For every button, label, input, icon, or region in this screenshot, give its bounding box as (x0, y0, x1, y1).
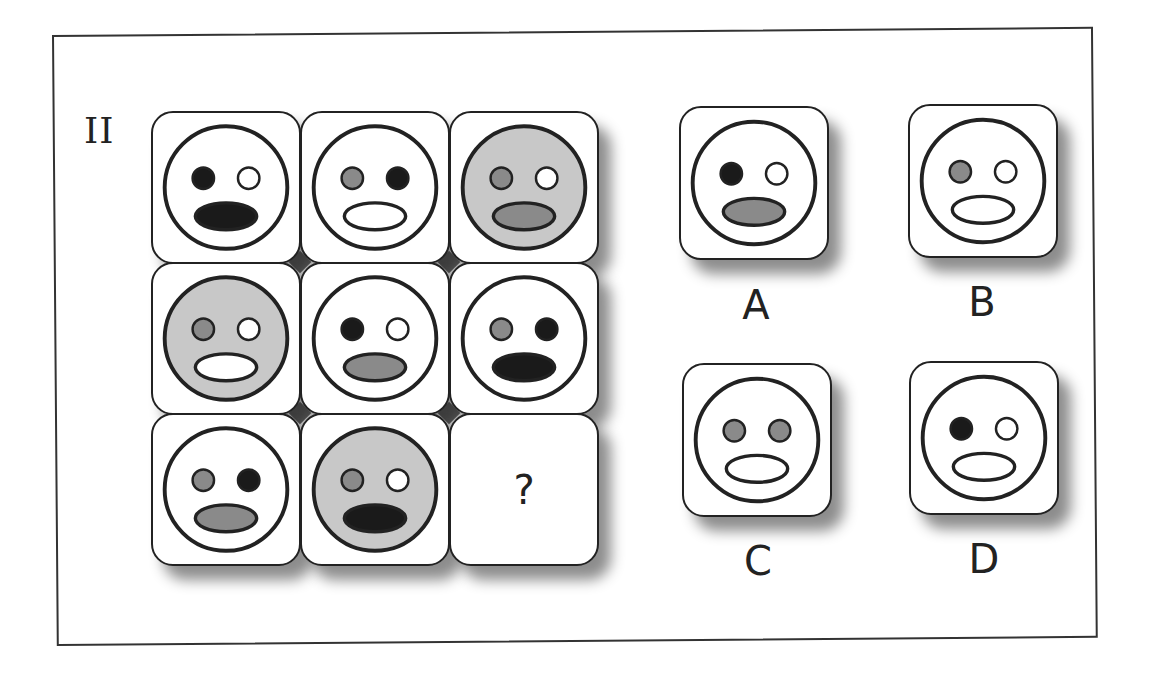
mouth (726, 455, 787, 482)
left-eye (342, 319, 363, 340)
mouth (344, 505, 405, 532)
grid-tile-r1-c2 (300, 111, 450, 264)
mouth (493, 354, 554, 381)
right-eye (387, 168, 408, 189)
right-eye (238, 168, 259, 189)
left-eye (193, 168, 214, 189)
mouth (493, 203, 554, 230)
right-eye (769, 420, 790, 441)
right-eye (238, 319, 259, 340)
option-c-tile[interactable] (682, 363, 832, 517)
left-eye (721, 163, 742, 184)
grid-tile-r2-c1 (151, 262, 301, 415)
mouth (952, 196, 1013, 223)
left-eye (491, 319, 512, 340)
mouth (195, 505, 256, 532)
mouth (195, 203, 256, 230)
right-eye (238, 470, 259, 491)
option-b-tile[interactable] (908, 104, 1058, 258)
left-eye (193, 319, 214, 340)
option-d-label[interactable]: D (954, 539, 1014, 579)
right-eye (536, 168, 557, 189)
option-c-label[interactable]: C (728, 541, 788, 581)
option-d-tile[interactable] (909, 361, 1059, 515)
puzzle-number: II (84, 113, 114, 149)
right-eye (995, 161, 1016, 182)
mouth (344, 354, 405, 381)
grid-tile-r3-c1 (151, 413, 301, 566)
mouth (344, 203, 405, 230)
mouth (723, 198, 784, 225)
grid-tile-r1-c3 (449, 111, 599, 264)
option-a-label[interactable]: A (726, 285, 786, 325)
right-eye (766, 163, 787, 184)
question-mark: ? (451, 467, 597, 513)
left-eye (491, 168, 512, 189)
option-b-label[interactable]: B (952, 282, 1012, 322)
grid-tile-r3-c2 (300, 413, 450, 566)
grid-tile-r2-c2 (300, 262, 450, 415)
left-eye (951, 418, 972, 439)
grid-tile-r1-c1 (151, 111, 301, 264)
left-eye (950, 161, 971, 182)
missing-tile: ? (449, 413, 599, 566)
grid-tile-r2-c3 (449, 262, 599, 415)
option-a-tile[interactable] (679, 106, 829, 260)
right-eye (387, 470, 408, 491)
left-eye (342, 168, 363, 189)
right-eye (536, 319, 557, 340)
left-eye (342, 470, 363, 491)
left-eye (724, 420, 745, 441)
right-eye (387, 319, 408, 340)
mouth (195, 354, 256, 381)
mouth (953, 453, 1014, 480)
right-eye (996, 418, 1017, 439)
left-eye (193, 470, 214, 491)
